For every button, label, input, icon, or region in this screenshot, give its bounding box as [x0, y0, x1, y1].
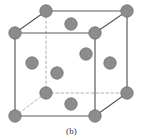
lattice-diagram [0, 0, 143, 140]
atom-corner-back-bottom-left [40, 87, 52, 99]
atom-face-center-right [104, 57, 116, 69]
atom-face-center-top [65, 18, 77, 30]
figure-caption: (b) [0, 126, 143, 136]
atom-corner-front-bottom-left [9, 110, 21, 122]
atom-corner-front-top-left [9, 27, 21, 39]
fcc-unit-cell-figure: (b) [0, 0, 143, 140]
atom-group [9, 5, 133, 122]
atom-corner-back-bottom-right [121, 87, 133, 99]
atom-corner-back-top-right [121, 5, 133, 17]
atom-corner-back-top-left [40, 5, 52, 17]
atom-face-center-front [80, 48, 92, 60]
atom-corner-front-top-right [89, 27, 101, 39]
atom-corner-front-bottom-right [89, 110, 101, 122]
atom-face-center-bottom [65, 98, 77, 110]
atom-face-center-left [26, 57, 38, 69]
atom-face-center-back [51, 67, 63, 79]
